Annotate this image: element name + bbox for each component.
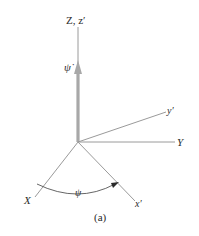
rate-arrow-head-icon [74, 60, 82, 74]
y-axis-label: Y [177, 136, 185, 148]
y-prime-axis [78, 112, 166, 142]
x-prime-axis-label: x′ [134, 198, 142, 209]
rotation-diagram: Z, z′ ψ̇ Y y′ X x′ ψ (a) [0, 0, 199, 236]
x-axis [35, 142, 78, 197]
rate-label: ψ̇ [64, 61, 75, 73]
angle-label: ψ [75, 187, 82, 198]
x-prime-axis [78, 142, 135, 201]
figure-caption: (a) [94, 211, 107, 224]
z-axis-label: Z, z′ [66, 14, 86, 26]
x-axis-label: X [23, 194, 32, 206]
angle-arrow-head-icon [111, 182, 119, 188]
y-prime-axis-label: y′ [166, 105, 174, 116]
